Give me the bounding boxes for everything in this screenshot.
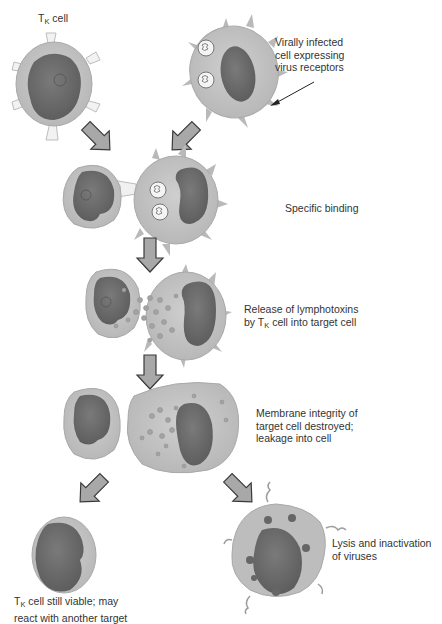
tk-cell-viable [32, 517, 96, 593]
label-tk-viable: TK cell still viable; may react with ano… [14, 595, 127, 624]
label-tk-cell: TK cell [38, 12, 68, 29]
label-line: TK cell still viable; may [14, 595, 127, 612]
arrow-down-right-icon [219, 469, 261, 511]
label-line: Lysis and inactivation [332, 537, 431, 550]
arrow-down-left-icon [71, 469, 113, 511]
lymphotoxin-release-cells [86, 264, 232, 368]
label-infected-cell: Virally infected cell expressing virus r… [275, 36, 344, 74]
label-line: Release of lymphotoxins [244, 303, 358, 316]
arrow-down-1-icon [137, 238, 163, 272]
label-line: Virally infected [275, 36, 344, 49]
tk-cell-initial [12, 33, 100, 140]
infected-cell-initial [177, 14, 291, 131]
label-line: by TK cell into target cell [244, 316, 358, 333]
arrow-diagonal-right-icon [77, 117, 119, 159]
label-line: leakage into cell [256, 432, 358, 445]
label-line: target cell destroyed; [256, 420, 358, 433]
label-line: cell expressing [275, 49, 344, 62]
label-line: of viruses [332, 550, 431, 563]
label-line: react with another target [14, 612, 127, 624]
label-line: virus receptors [275, 61, 344, 74]
label-specific-binding: Specific binding [285, 202, 359, 215]
label-membrane-destroyed: Membrane integrity of target cell destro… [256, 407, 358, 445]
pointer-line [274, 82, 314, 104]
arrow-down-2-icon [137, 355, 163, 389]
membrane-destroyed-cells [64, 383, 239, 473]
label-lymphotoxin-release: Release of lymphotoxins by TK cell into … [244, 303, 358, 332]
label-lysis: Lysis and inactivation of viruses [332, 537, 431, 562]
label-line: Membrane integrity of [256, 407, 358, 420]
